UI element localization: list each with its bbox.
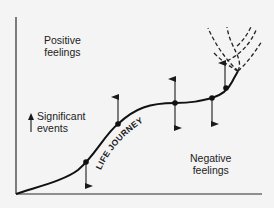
significant-label-line1: Significant xyxy=(37,110,85,122)
significant-events-arrow-icon xyxy=(27,113,35,133)
event-dot xyxy=(115,121,121,127)
event-dot xyxy=(223,85,229,91)
negative-label-line2: feelings xyxy=(190,164,231,176)
branch-crossing-a xyxy=(227,28,257,61)
positive-label-line2: feelings xyxy=(44,46,81,58)
significant-events-label: Significant events xyxy=(37,110,85,134)
branch-right-outer xyxy=(238,41,262,71)
event-dot xyxy=(172,100,178,106)
branch-middle xyxy=(227,27,239,71)
diagram-graphic: LIFE JOURNEY xyxy=(0,0,274,208)
branch-left xyxy=(208,28,238,71)
event-dot xyxy=(83,159,89,165)
negative-feelings-label: Negative feelings xyxy=(190,152,231,176)
event-dot xyxy=(209,95,215,101)
future-branches xyxy=(208,25,262,71)
branch-crossing-b xyxy=(237,25,252,46)
positive-label-line1: Positive xyxy=(44,34,81,46)
life-journey-diagram: LIFE JOURNEY Positive feelings Significa… xyxy=(0,0,274,208)
positive-feelings-label: Positive feelings xyxy=(44,34,81,58)
negative-label-line1: Negative xyxy=(190,152,231,164)
branch-crossing-c xyxy=(214,53,238,71)
significant-label-line2: events xyxy=(37,122,85,134)
